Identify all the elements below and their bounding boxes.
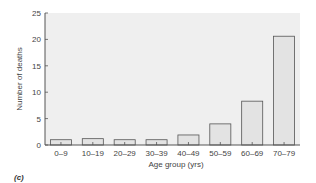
x-tick-label: 70–79 [273, 149, 296, 158]
bar-60–69 [242, 101, 263, 145]
y-tick-label: 25 [32, 9, 41, 18]
y-axis-title: Number of deaths [15, 47, 24, 111]
x-tick-label: 0–9 [54, 149, 68, 158]
x-tick-label: 60–69 [241, 149, 264, 158]
y-tick-label: 10 [32, 88, 41, 97]
y-tick-label: 15 [32, 62, 41, 71]
x-tick-label: 30–39 [145, 149, 168, 158]
bar-chart: 0510152025 0–910–1920–2930–3940–4950–596… [0, 0, 316, 183]
x-tick-label: 50–59 [209, 149, 232, 158]
y-tick-label: 5 [37, 115, 42, 124]
x-axis-title: Age group (yrs) [148, 160, 203, 169]
panel-label: (c) [14, 173, 24, 182]
x-tick-label: 40–49 [177, 149, 200, 158]
y-tick-label: 20 [32, 35, 41, 44]
y-tick-label: 0 [37, 141, 42, 150]
x-tick-label: 20–29 [114, 149, 137, 158]
x-tick-label: 10–19 [82, 149, 105, 158]
bar-70–79 [274, 36, 295, 145]
bar-50–59 [210, 124, 231, 145]
